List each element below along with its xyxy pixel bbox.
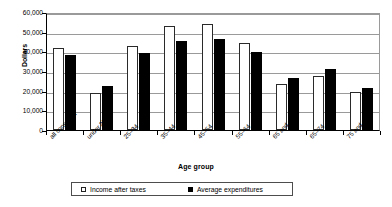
x-tick-mark [269,131,270,135]
bar-group [90,14,113,130]
y-tick-label: 20,000 [3,88,43,95]
bar-income-after-taxes [202,24,213,130]
x-tick-mark [232,131,233,135]
y-tick-label: 30,000 [3,68,43,75]
x-axis-title: Age group [0,163,392,170]
bar-group [202,14,225,130]
bar-income-after-taxes [239,43,250,130]
legend-item-expenditures: Average expenditures [188,186,263,193]
bar-group [164,14,187,130]
legend-swatch-filled-square-icon [188,187,193,192]
bar-average-expenditures [214,39,225,130]
y-tick-label: 40,000 [3,48,43,55]
bar-group [127,14,150,130]
bar-average-expenditures [139,53,150,130]
bar-average-expenditures [251,52,262,130]
bar-income-after-taxes [313,76,324,130]
x-tick-mark [380,131,381,135]
y-tick-label: 60,000 [3,9,43,16]
bar-group [313,14,336,130]
y-tick-label: 10,000 [3,107,43,114]
legend-label-income: Income after taxes [90,186,146,193]
bar-chart: Dollars 60,00050,00040,00030,00020,00010… [0,0,392,207]
chart-legend: Income after taxes Average expenditures [71,182,293,196]
y-tick-label: 0 [3,127,43,134]
bar-income-after-taxes [164,26,175,130]
bar-income-after-taxes [127,46,138,130]
plot-area [46,13,380,131]
bar-average-expenditures [176,41,187,130]
bar-income-after-taxes [53,48,64,130]
y-tick-label: 50,000 [3,29,43,36]
bar-group [239,14,262,130]
legend-item-income: Income after taxes [81,186,146,193]
bar-average-expenditures [325,69,336,130]
legend-swatch-open-square-icon [81,187,86,192]
x-tick-mark [306,131,307,135]
legend-label-expenditures: Average expenditures [197,186,263,193]
